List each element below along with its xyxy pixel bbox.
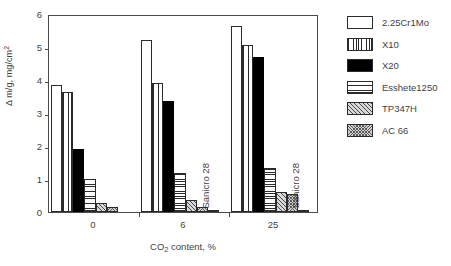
y-axis-tick-label: 6 <box>28 10 42 20</box>
legend-swatch <box>347 124 373 137</box>
bars-layer <box>49 16 317 212</box>
bar-annotation-sanicro-28: Sanicro 28 <box>290 163 300 208</box>
y-axis-tick-label: 1 <box>28 175 42 185</box>
x-axis-title-post: content, % <box>168 241 216 252</box>
y-axis-tick-label: 2 <box>28 142 42 152</box>
y-axis-tick-label: 5 <box>28 43 42 53</box>
x-axis-tick-mark <box>139 212 140 217</box>
y-axis-tick-label: 4 <box>28 76 42 86</box>
bar <box>51 85 62 212</box>
legend-item[interactable]: AC 66 <box>347 120 451 142</box>
y-axis-title-superscript: 2 <box>3 46 10 50</box>
bar <box>107 207 118 212</box>
x-axis-tick-label: 6 <box>163 219 203 230</box>
legend-item[interactable]: TP347H <box>347 98 451 120</box>
bar-chart-figure: Δ m/g, mg/cm2 0123456 Sanicro 28Sanicro … <box>0 0 451 266</box>
bar <box>163 101 174 212</box>
legend-swatch <box>347 16 373 29</box>
bar <box>186 200 197 212</box>
bar <box>174 173 185 212</box>
bar-annotation-sanicro-28: Sanicro 28 <box>200 163 210 208</box>
y-axis-tick-label: 0 <box>28 208 42 218</box>
x-axis-tick-mark <box>229 212 230 217</box>
y-axis-title-text: Δ m/g, mg/cm <box>4 50 14 106</box>
bar <box>208 210 219 212</box>
legend-item[interactable]: 2.25Cr1Mo <box>347 12 451 34</box>
legend-label: X10 <box>382 39 399 50</box>
legend-label: X20 <box>382 60 399 71</box>
bar <box>152 83 163 212</box>
legend-label: TP347H <box>382 103 417 114</box>
bar <box>96 203 107 212</box>
legend-label: AC 66 <box>382 125 408 136</box>
bar <box>242 45 253 212</box>
legend: 2.25Cr1MoX10X20Esshete1250TP347HAC 66 <box>347 12 451 141</box>
x-axis-title-pre: CO <box>150 241 164 252</box>
bar <box>62 92 73 212</box>
x-axis-tick-label: 25 <box>253 219 293 230</box>
x-axis-title: CO2 content, % <box>48 241 318 254</box>
legend-swatch <box>347 81 373 94</box>
y-axis-tick-labels: 0123456 <box>24 0 42 266</box>
y-axis-title: Δ m/g, mg/cm2 <box>3 0 14 106</box>
legend-swatch <box>347 59 373 72</box>
legend-label: 2.25Cr1Mo <box>382 17 429 28</box>
plot-area: Sanicro 28Sanicro 28 <box>48 15 318 213</box>
bar <box>298 210 309 212</box>
bar <box>141 40 152 212</box>
bar <box>84 179 95 212</box>
legend-item[interactable]: X20 <box>347 55 451 77</box>
legend-item[interactable]: X10 <box>347 34 451 56</box>
x-axis-tick-label: 0 <box>73 219 113 230</box>
legend-label: Esshete1250 <box>382 82 437 93</box>
y-axis-tick-label: 3 <box>28 109 42 119</box>
legend-swatch <box>347 38 373 51</box>
legend-item[interactable]: Esshete1250 <box>347 77 451 99</box>
bar <box>231 26 242 212</box>
legend-swatch <box>347 102 373 115</box>
bar <box>73 149 84 212</box>
bar <box>276 192 287 212</box>
bar <box>253 57 264 212</box>
bar <box>264 168 275 212</box>
